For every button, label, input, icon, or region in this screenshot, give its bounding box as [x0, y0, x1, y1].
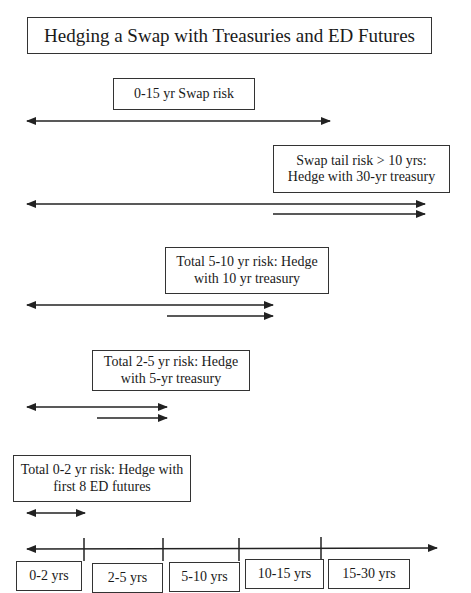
timeline-axis: [27, 548, 437, 549]
